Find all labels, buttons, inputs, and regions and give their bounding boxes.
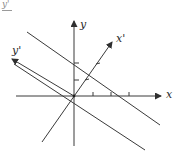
corner-label: y' bbox=[2, 0, 12, 11]
y-prime-axis bbox=[12, 59, 74, 96]
x-prime-axis bbox=[42, 42, 112, 142]
coordinate-diagram: y' x y x' y' bbox=[0, 0, 182, 161]
diagram-svg bbox=[0, 0, 182, 161]
x-prime-axis-label: x' bbox=[116, 33, 125, 44]
origin-point bbox=[73, 95, 76, 98]
parallel-line-lower bbox=[14, 64, 145, 150]
y-prime-axis-label: y' bbox=[12, 45, 21, 56]
x-axis-label: x bbox=[166, 89, 172, 100]
x-axis-ticks bbox=[93, 92, 129, 96]
y-axis-label: y bbox=[80, 19, 86, 30]
parallel-line-upper bbox=[27, 32, 160, 125]
